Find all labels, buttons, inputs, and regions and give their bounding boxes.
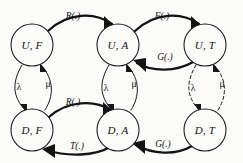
edge-ut-ua: G(.) xyxy=(133,52,193,72)
node-ua[interactable]: U, A xyxy=(97,24,139,66)
edge-dt-ut-mu-label: μ xyxy=(219,79,224,89)
edge-ua-ut-label: F(.) xyxy=(154,11,170,22)
node-dt-label: D, T xyxy=(194,124,216,136)
node-uf-label: U, F xyxy=(22,39,43,51)
edge-da-df: T(.) xyxy=(42,141,110,158)
node-da[interactable]: D, A xyxy=(97,109,139,151)
diagram-canvas: R(.) F(.) G(.) R(.) T(.) xyxy=(0,0,243,163)
edge-ut-dt-lambda-label: λ xyxy=(191,83,196,93)
state-transition-diagram: R(.) F(.) G(.) R(.) T(.) xyxy=(0,0,243,163)
edge-ut-dt-lambda: λ xyxy=(189,65,201,113)
edge-df-uf-mu-label: μ xyxy=(45,79,50,89)
edge-da-ua-mu-label: μ xyxy=(131,79,136,89)
node-ua-label: U, A xyxy=(108,39,129,51)
edge-uf-ua-label: R(.) xyxy=(65,11,81,22)
edge-ut-ua-arrowhead xyxy=(133,58,146,72)
edge-da-df-label: T(.) xyxy=(70,141,84,152)
node-uf[interactable]: U, F xyxy=(11,24,53,66)
edge-uf-df-lambda-label: λ xyxy=(17,82,22,92)
node-df[interactable]: D, F xyxy=(11,109,53,151)
edge-df-da-label: R(.) xyxy=(65,97,81,108)
edge-df-uf-mu: μ xyxy=(40,63,51,110)
node-ut[interactable]: U, T xyxy=(184,24,226,66)
edge-ut-ua-label: G(.) xyxy=(157,52,173,63)
edge-ua-da-lambda-label: λ xyxy=(104,83,109,93)
edge-dt-da-label: G(.) xyxy=(155,139,171,150)
edge-da-ua-mu: μ xyxy=(126,63,137,110)
node-dt[interactable]: D, T xyxy=(184,109,226,151)
edge-uf-df-lambda: λ xyxy=(15,65,27,113)
node-ut-label: U, T xyxy=(195,39,216,51)
node-da-label: D, A xyxy=(107,124,129,136)
node-df-label: D, F xyxy=(21,124,43,136)
edge-dt-da: G(.) xyxy=(132,139,192,154)
edge-dt-ut-mu: μ xyxy=(213,63,225,110)
